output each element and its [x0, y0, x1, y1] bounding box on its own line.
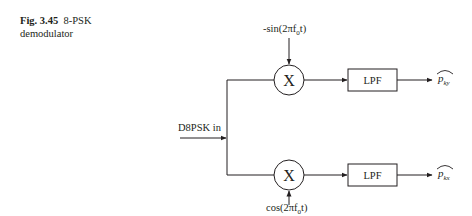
bottom-multiplier-symbol: X: [283, 167, 295, 184]
bottom-lpf-label: LPF: [363, 170, 381, 181]
top-output-label: pky: [437, 72, 451, 87]
input-label: D8PSK in: [178, 122, 222, 133]
demodulator-diagram: D8PSK in -sin(2πf0t) X LPF pky X LPF pkx…: [0, 0, 472, 216]
top-carrier-label: -sin(2πf0t): [263, 23, 307, 37]
bottom-carrier-label: cos(2πf0t): [266, 202, 308, 216]
top-lpf-label: LPF: [363, 75, 381, 86]
bottom-output-label: pkx: [437, 167, 451, 182]
top-multiplier-symbol: X: [283, 72, 295, 89]
